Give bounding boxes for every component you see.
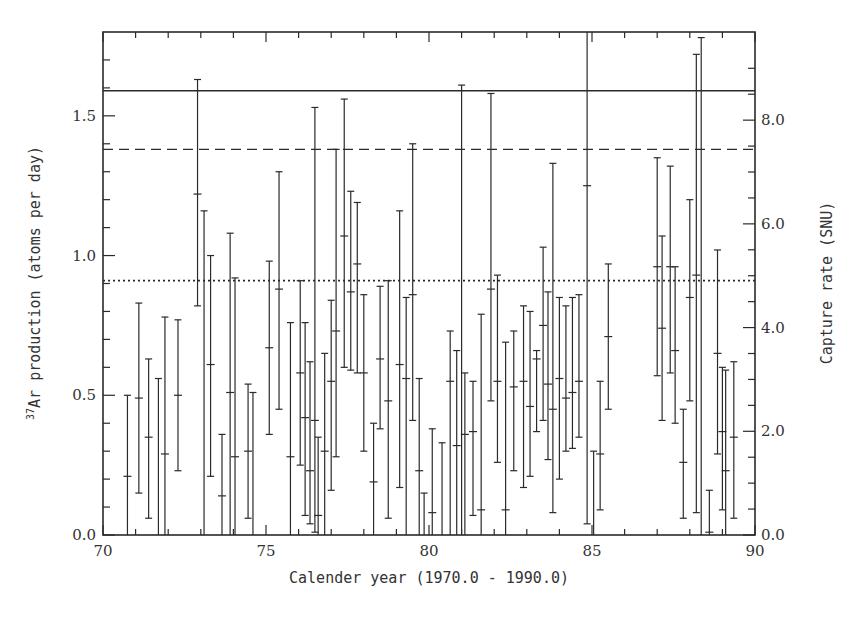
data-point (340, 99, 348, 367)
data-point (402, 297, 410, 535)
data-point (730, 362, 738, 518)
data-point (477, 314, 485, 535)
data-point (370, 423, 378, 535)
data-point (469, 381, 477, 515)
data-point (301, 323, 309, 516)
y2-tick-label: 0.0 (761, 526, 785, 544)
data-point (201, 211, 208, 535)
data-point (327, 300, 335, 490)
data-point (705, 490, 713, 535)
x-axis: 7075808590 (93, 32, 764, 560)
data-point (384, 281, 392, 519)
y-tick-label: 0.0 (72, 526, 96, 544)
data-point (321, 353, 329, 535)
data-point (415, 379, 423, 535)
x-tick-label: 70 (93, 542, 112, 560)
data-point (421, 493, 428, 535)
data-point (218, 434, 226, 535)
data-point (161, 317, 169, 535)
data-point (296, 281, 304, 465)
data-point (692, 54, 700, 512)
y2-tick-label: 2.0 (761, 422, 785, 440)
chart: 7075808590 0.00.51.01.5 0.02.04.06.08.0 … (0, 0, 863, 617)
y-axis-title: 37Ar production (atoms per day) (25, 146, 44, 420)
data-point (596, 381, 604, 510)
data-point (686, 200, 694, 401)
y-axis-title-text: Ar production (atoms per day) (26, 146, 44, 408)
data-point (439, 443, 446, 535)
x-axis-title: Calender year (1970.0 - 1990.0) (289, 569, 569, 587)
data-point (653, 158, 661, 376)
data-point (555, 297, 563, 479)
data-point (520, 306, 528, 488)
data-point (353, 202, 361, 372)
data-point (360, 295, 368, 451)
data-point (396, 211, 404, 488)
data-point (174, 320, 182, 471)
data-point (526, 311, 534, 476)
data-point (306, 362, 314, 524)
y-axis-title-superscript: 37 (25, 408, 36, 420)
y2-tick-label: 8.0 (761, 111, 785, 129)
data-point (590, 451, 597, 535)
y-axis-left: 0.00.51.01.5 (72, 60, 115, 544)
x-tick-label: 75 (256, 542, 275, 560)
data-point (244, 384, 252, 518)
data-point (698, 38, 705, 535)
data-point (458, 85, 465, 535)
data-point (510, 331, 518, 471)
data-point (376, 286, 384, 429)
data-point (286, 323, 294, 535)
data-point (194, 80, 202, 306)
data-point (666, 166, 674, 373)
data-point (502, 342, 510, 535)
y-tick-label: 0.5 (72, 386, 96, 404)
y2-tick-label: 4.0 (761, 319, 785, 337)
y-axis-right: 0.02.04.06.08.0 (743, 68, 785, 544)
data-point (575, 295, 583, 438)
data-point (568, 297, 576, 448)
data-point (207, 256, 215, 477)
y2-tick-label: 6.0 (761, 215, 785, 233)
data-point (487, 93, 495, 400)
data-point (493, 275, 501, 462)
data-point (275, 172, 283, 410)
data-point (583, 32, 591, 524)
data-point (332, 149, 340, 456)
data-point (533, 351, 541, 432)
y-tick-label: 1.5 (72, 107, 96, 125)
data-point (428, 429, 436, 535)
y2-axis-title: Capture rate (SNU) (818, 202, 836, 365)
data-point (658, 236, 666, 420)
data-points (123, 32, 737, 535)
data-point (671, 267, 679, 423)
data-point (145, 359, 153, 518)
data-point (123, 395, 131, 535)
data-point (446, 331, 454, 535)
data-point (231, 278, 239, 535)
data-point (135, 303, 143, 493)
x-tick-label: 90 (745, 542, 764, 560)
data-point (604, 264, 612, 409)
data-point (155, 379, 162, 535)
x-tick-label: 80 (419, 542, 438, 560)
data-point (544, 292, 552, 460)
x-tick-label: 85 (582, 542, 601, 560)
data-point (249, 392, 256, 535)
data-point (549, 163, 557, 512)
data-point (679, 409, 687, 518)
data-point (265, 261, 273, 434)
y-tick-label: 1.0 (72, 247, 96, 265)
data-point (539, 247, 547, 420)
data-point (453, 351, 461, 535)
